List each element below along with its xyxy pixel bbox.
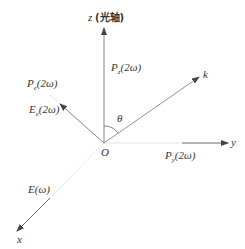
z-axis-label: z (光轴)	[88, 12, 124, 23]
k-label: k	[203, 69, 208, 80]
x-axis-arrow	[17, 198, 50, 231]
k-vector-line	[104, 77, 199, 143]
e-fundamental-label: E(ω)	[28, 184, 50, 195]
theta-label: θ	[117, 113, 122, 124]
y-axis-label: y	[231, 137, 236, 148]
x-axis-line-faint	[52, 143, 104, 196]
diagram-canvas: z (光轴) Pz(2ω) k Pe(2ω) Ee(2ω) θ O y Py(2…	[0, 0, 245, 249]
origin-label: O	[101, 147, 109, 158]
pz-label: Pz(2ω)	[111, 62, 141, 73]
x-axis-label: x	[17, 234, 22, 245]
theta-arc	[104, 126, 118, 133]
diagram-svg	[0, 0, 245, 249]
py-label: Py(2ω)	[165, 150, 195, 161]
pe-vector-extension	[50, 95, 58, 102]
ee-vector-line	[60, 104, 104, 143]
pe-label: Pe(2ω)	[27, 78, 57, 89]
ee-label: Ee(2ω)	[29, 104, 59, 115]
